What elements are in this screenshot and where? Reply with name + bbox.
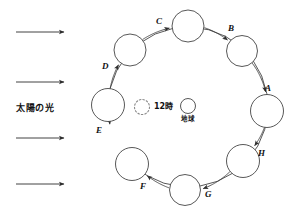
orbit-position-circle-c [172,10,204,42]
orbit-label-c: C [156,17,162,26]
orbit-label-b: B [228,24,234,33]
earth-icon [181,99,196,114]
orbit-position-circle-a [251,95,284,128]
diagram-canvas: 太陽の光 12時 地球 ABCDEFGH [0,0,300,217]
orbit-label-a: A [265,84,271,93]
orbit-label-g: G [205,190,212,199]
orbit-label-f: F [140,182,146,191]
orbit-position-circle-f [116,148,149,181]
orbit-position-circle-h [227,145,260,178]
orbit-label-e: E [96,126,102,135]
orbit-position-circle-d [114,34,146,66]
orbit-position-circle-b [227,36,258,67]
orbit-position-circle-g [170,175,201,206]
orbit-label-d: D [102,62,109,71]
sunlight-label: 太陽の光 [16,104,54,113]
earth-label: 地球 [181,116,195,123]
orbit-position-circle-e [92,89,125,122]
noon-time-label: 12時 [154,103,173,111]
orbit-label-h: H [258,149,265,158]
noon-marker-icon [135,100,150,115]
orbit-arrow-h-to-g [203,172,230,189]
orbit-arrow-b-to-a [252,63,265,92]
orbit-arrow-a-to-h [255,128,265,146]
